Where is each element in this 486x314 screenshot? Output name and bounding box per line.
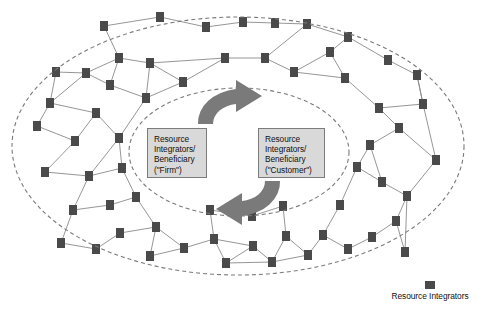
cycle-arrow-top [198,80,262,124]
resource-integrator-node [118,163,126,173]
resource-integrator-node [392,216,400,226]
resource-integrator-node [395,123,403,133]
resource-integrator-node [132,192,140,202]
network-edge [56,72,86,73]
resource-integrator-node [319,230,327,240]
network-edge [37,126,75,141]
resource-integrator-node [401,247,409,257]
network-edge [120,227,156,233]
resource-integrator-node [82,68,90,78]
resource-integrator-node [353,162,361,172]
resource-integrator-node [344,244,352,254]
network-edge [294,72,345,78]
network-edge [150,58,225,63]
network-edge [348,37,388,60]
resource-integrator-node [146,58,154,68]
resource-integrator-node [290,67,298,77]
resource-integrator-node [46,98,54,108]
network-edge [379,104,423,108]
resource-integrator-node-swatch [425,281,435,289]
resource-integrator-node [115,133,123,143]
network-edge [150,248,184,256]
resource-integrator-node [116,228,124,238]
network-edge [146,63,150,98]
network-edge [45,141,75,172]
diagram-canvas [0,0,486,314]
network-edge [50,103,96,113]
resource-integrator-customer-box: Resource Integrators/ Beneficiary ("Cust… [258,128,325,178]
network-edge [370,128,399,145]
resource-integrator-node [403,191,411,201]
resource-integrator-node [33,121,41,131]
resource-integrator-node [52,67,60,77]
resource-integrator-node [384,55,392,65]
resource-integrator-firm-box: Resource Integrators/ Beneficiary ("Firm… [147,128,207,178]
resource-integrator-node [249,241,257,251]
legend: Resource Integrators [378,281,482,301]
network-edge [294,52,330,72]
resource-integrator-node [239,17,247,27]
network-edge [405,196,407,252]
network-edge [272,255,308,262]
resource-integrator-node [419,99,427,109]
network-edge [243,22,275,23]
resource-integrator-node [202,22,210,32]
resource-integrator-node [261,53,269,63]
network-edge [110,85,146,98]
resource-integrator-node [146,251,154,261]
resource-integrator-node [71,136,79,146]
resource-integrator-node [106,200,114,210]
resource-integrator-node [152,222,160,232]
network-edge [45,172,89,176]
legend-label: Resource Integrators [378,291,482,301]
resource-integrator-node [179,77,187,87]
service-ecosystem-diagram: Resource Integrators/ Beneficiary ("Firm… [0,0,486,314]
network-edge [50,73,86,103]
network-edge [119,58,150,63]
network-edge [104,17,160,26]
network-edge [183,58,225,82]
network-edge [206,22,243,27]
network-edge [184,239,214,248]
resource-integrator-node [115,53,123,63]
network-edge [89,138,119,176]
network-edge [73,205,110,210]
resource-integrator-node [92,244,100,254]
resource-integrator-node [336,200,344,210]
network-edge [150,63,183,82]
resource-integrator-node [156,12,164,22]
resource-integrator-node [92,108,100,118]
network-edge [226,246,253,263]
network-edge [423,104,436,160]
resource-integrator-node [69,205,77,215]
network-edge [407,160,436,196]
network-edge [307,24,348,37]
network-edge [399,128,436,160]
resource-integrator-node [210,234,218,244]
resource-integrator-node [344,32,352,42]
network-edge-group [37,17,436,263]
boundary-ellipse-group [12,17,464,275]
network-edge [265,24,307,58]
network-edge [265,58,294,72]
resource-integrator-node [41,167,49,177]
network-edge [275,23,307,24]
resource-integrator-node [222,258,230,268]
resource-integrator-node [100,21,108,31]
resource-integrator-node [368,232,376,242]
network-edge [146,82,183,98]
network-edge [156,227,184,248]
resource-integrator-node [432,155,440,165]
resource-integrator-node [85,171,93,181]
resource-integrator-node [366,140,374,150]
resource-integrator-node [341,73,349,83]
resource-integrator-node [326,47,334,57]
network-edge [345,78,379,108]
network-edge [370,145,382,182]
network-edge [226,262,272,263]
resource-integrator-node [180,243,188,253]
resource-integrator-node [106,80,114,90]
network-edge [73,176,89,210]
network-edge [119,98,146,138]
resource-integrator-node [378,177,386,187]
